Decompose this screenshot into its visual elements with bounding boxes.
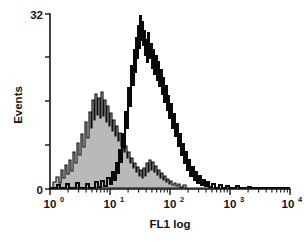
x-axis-tick-labels: 10 0 10 1 10 2 10 3 10 4 [44,195,303,210]
x-label-1e1-mantissa: 10 [104,198,117,210]
x-label-1e2-exponent: 2 [180,195,184,204]
x-label-1e4-mantissa: 10 [282,198,295,210]
y-axis-max-label: 32 [30,9,43,21]
x-axis-title: FL1 log [150,218,191,230]
x-label-1e3-exponent: 3 [240,195,244,204]
x-label-1e3-mantissa: 10 [224,198,237,210]
y-axis-title: Events [12,86,24,124]
x-label-1e1-exponent: 1 [120,195,124,204]
x-axis-ticks [50,189,290,195]
flow-cytometry-histogram-figure: 32 0 Events 10 0 10 1 10 2 10 3 10 4 FL1… [0,0,307,242]
x-label-1e4-exponent: 4 [298,195,303,204]
x-label-1e0-mantissa: 10 [44,198,57,210]
x-label-1e2-mantissa: 10 [164,198,177,210]
histogram-plot: 32 0 Events 10 0 10 1 10 2 10 3 10 4 FL1… [0,0,307,242]
x-label-1e0-exponent: 0 [60,195,64,204]
y-axis-min-label: 0 [37,184,43,196]
